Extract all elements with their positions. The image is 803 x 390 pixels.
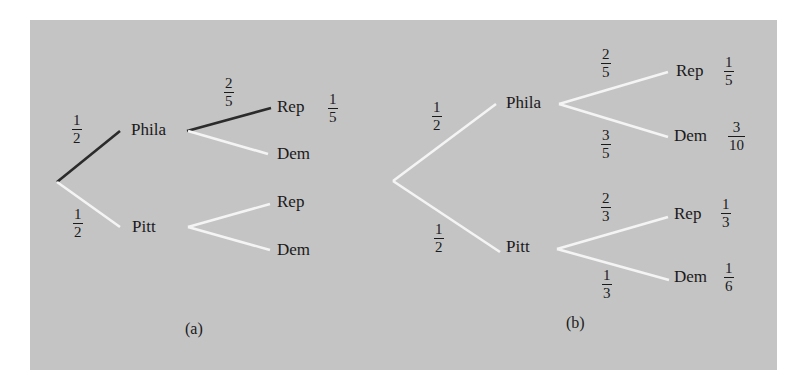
numerator: 1 [724,261,734,277]
outcome-b-pitt-rep: 1 3 [721,197,731,230]
denominator: 5 [601,144,611,161]
numerator: 1 [328,92,338,108]
edge-b-root-pitt [393,181,500,252]
node-b-phila-dem: Dem [674,127,707,145]
node-a-phila-rep: Rep [277,98,304,116]
outcome-b-phila-rep: 1 5 [724,55,734,88]
numerator: 1 [721,197,731,213]
node-b-phila: Phila [506,94,541,112]
prob-b-root-phila: 1 2 [432,100,442,133]
outcome-a-phila-rep: 1 5 [328,92,338,125]
edge-a-root-pitt [57,182,120,227]
node-a-pitt-rep: Rep [277,193,304,211]
numerator: 1 [724,55,734,71]
denominator: 2 [72,129,82,146]
prob-a-root-phila: 1 2 [72,113,82,146]
prob-b-phila-dem: 3 5 [601,128,611,161]
prob-b-phila-rep: 2 5 [601,47,611,80]
numerator: 2 [601,47,611,63]
denominator: 3 [721,213,731,230]
numerator: 3 [732,120,742,136]
edge-b-root-phila [393,104,496,181]
edge-a-pitt-rep [188,204,270,227]
edge-b-pitt-dem [557,249,669,280]
numerator: 3 [601,128,611,144]
denominator: 3 [601,207,611,224]
numerator: 1 [602,268,612,284]
denominator: 2 [432,116,442,133]
denominator: 3 [602,284,612,301]
caption-b: (b) [566,314,585,332]
prob-a-root-pitt: 1 2 [73,207,83,240]
node-b-pitt-rep: Rep [674,205,701,223]
denominator: 2 [434,238,444,255]
prob-a-phila-rep: 2 5 [224,76,234,109]
numerator: 1 [432,100,442,116]
numerator: 2 [601,191,611,207]
edge-b-pitt-rep [557,217,668,249]
numerator: 2 [224,76,234,92]
denominator: 5 [224,92,234,109]
tree-branches [0,0,803,390]
outcome-b-pitt-dem: 1 6 [724,261,734,294]
node-a-phila: Phila [131,121,166,139]
denominator: 5 [601,63,611,80]
edge-a-pitt-dem [188,227,270,250]
node-a-phila-dem: Dem [277,145,310,163]
prob-b-pitt-rep: 2 3 [601,191,611,224]
prob-b-pitt-dem: 1 3 [602,268,612,301]
edge-a-phila-rep [187,108,271,131]
numerator: 1 [72,113,82,129]
node-a-pitt-dem: Dem [277,241,310,259]
node-b-phila-rep: Rep [676,62,703,80]
edge-b-phila-dem [559,104,668,137]
edge-a-root-phila [57,131,120,182]
outcome-b-phila-dem: 3 10 [728,120,745,153]
prob-b-root-pitt: 1 2 [434,222,444,255]
edge-a-phila-dem [188,131,268,154]
numerator: 1 [73,207,83,223]
denominator: 6 [724,277,734,294]
denominator: 2 [73,223,83,240]
node-b-pitt: Pitt [506,238,530,256]
caption-a: (a) [185,320,203,338]
numerator: 1 [434,222,444,238]
denominator: 10 [728,136,745,153]
edge-b-phila-rep [559,72,668,104]
node-a-pitt: Pitt [132,218,156,236]
denominator: 5 [724,71,734,88]
node-b-pitt-dem: Dem [674,268,707,286]
denominator: 5 [328,108,338,125]
